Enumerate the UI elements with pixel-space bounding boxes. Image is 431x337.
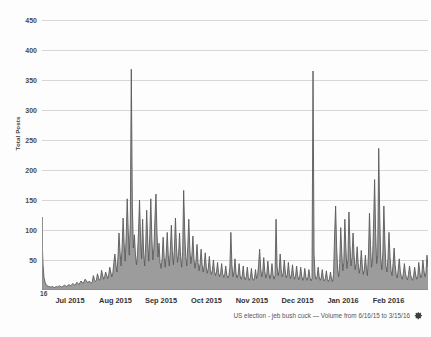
y-tick-label: 150 xyxy=(25,197,37,204)
x-axis-line xyxy=(42,289,428,290)
x-tick-label: Oct 2015 xyxy=(191,296,222,305)
x-axis-label-group: Jul 2015Aug 2015Sep 2015Oct 2015Nov 2015… xyxy=(42,296,428,310)
y-tick-label: 200 xyxy=(25,167,37,174)
x-tick-label: Sep 2015 xyxy=(145,296,177,305)
caption-label: US election - jeb bush cuck — Volume fro… xyxy=(233,312,410,319)
y-axis-title: Total Posts xyxy=(14,94,21,174)
x-tick-label: Feb 2016 xyxy=(373,296,405,305)
volume-chart: Total Posts 50100150200250300350400450 1… xyxy=(0,0,431,337)
area-series-fill xyxy=(42,69,428,290)
x-tick-label: Dec 2015 xyxy=(281,296,313,305)
y-tick-label: 350 xyxy=(25,77,37,84)
y-tick-label: 250 xyxy=(25,137,37,144)
y-tick-label: 450 xyxy=(25,17,37,24)
x-tick-label: Aug 2015 xyxy=(99,296,132,305)
x-tick-label: Nov 2015 xyxy=(236,296,268,305)
y-tick-label: 50 xyxy=(29,257,37,264)
gear-icon[interactable] xyxy=(414,311,423,320)
y-tick-label: 300 xyxy=(25,107,37,114)
x-tick-label: Jan 2016 xyxy=(327,296,358,305)
plot-area: 50100150200250300350400450 xyxy=(42,14,428,290)
chart-caption: US election - jeb bush cuck — Volume fro… xyxy=(233,311,423,320)
x-tick-label: Jul 2015 xyxy=(55,296,84,305)
area-series xyxy=(42,14,428,290)
y-tick-label: 400 xyxy=(25,47,37,54)
y-tick-label: 100 xyxy=(25,227,37,234)
y-axis-spine xyxy=(42,217,43,290)
